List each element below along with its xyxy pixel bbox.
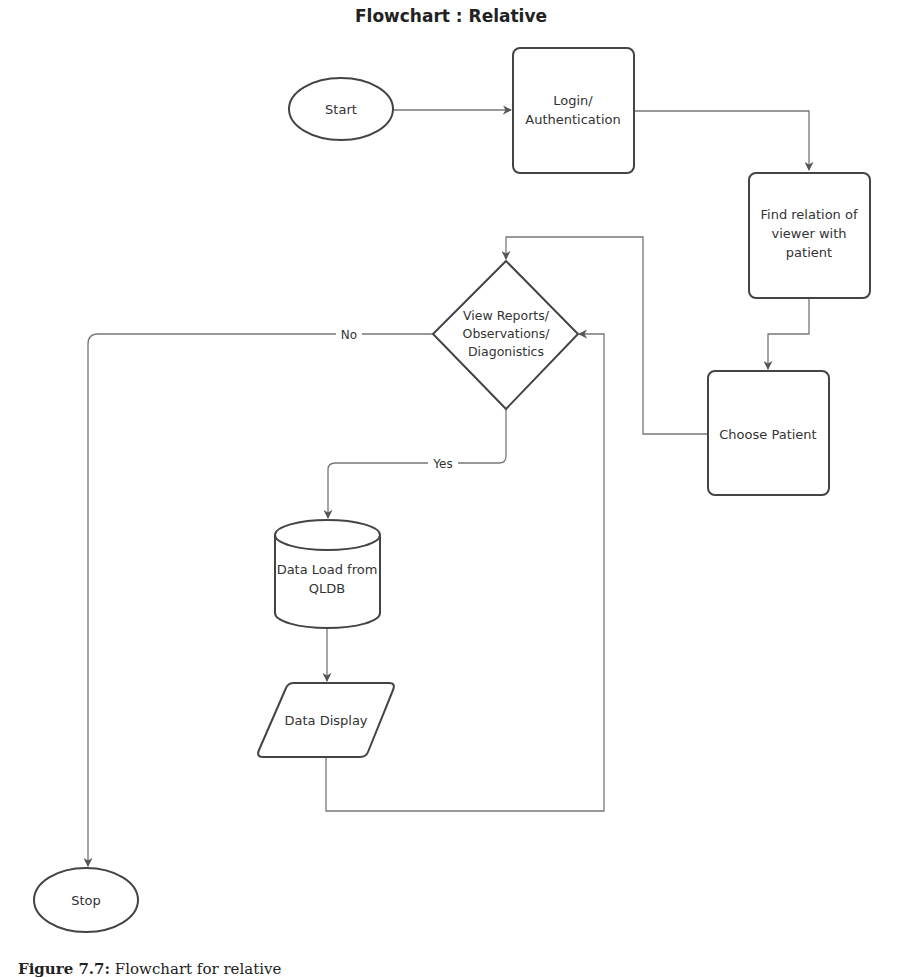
login-label-line-1: Login/ (553, 93, 593, 108)
decision-label-line-3: Diagonistics (468, 344, 544, 359)
stop-label: Stop (71, 893, 101, 908)
data-display-label: Data Display (284, 713, 367, 728)
edge-label-yes: Yes (432, 457, 452, 471)
edge-label-no: No (341, 328, 357, 342)
node-start: Start (289, 78, 393, 140)
node-data-load: Data Load from QLDB (275, 520, 380, 628)
edge-decision-yes-to-data-load (328, 409, 506, 518)
edge-login-to-find-relation (634, 111, 809, 170)
start-label: Start (325, 102, 357, 117)
connectors (88, 110, 809, 866)
figure-caption: Figure 7.7: Flowchart for relative (18, 960, 281, 978)
node-decision: View Reports/ Observations/ Diagonistics (433, 261, 578, 409)
node-login: Login/ Authentication (513, 48, 634, 173)
edge-find-relation-to-choose-patient (768, 298, 809, 369)
node-find-relation: Find relation of viewer with patient (749, 173, 870, 298)
find-relation-label-line-3: patient (786, 245, 832, 260)
node-data-display: Data Display (258, 683, 394, 757)
decision-label-line-2: Observations/ (463, 326, 551, 341)
data-load-label-line-2: QLDB (309, 581, 345, 596)
figure-caption-label: Figure 7.7: (18, 960, 110, 978)
choose-patient-label: Choose Patient (719, 427, 816, 442)
find-relation-label-line-2: viewer with (772, 226, 847, 241)
node-choose-patient: Choose Patient (708, 371, 829, 495)
login-label-line-2: Authentication (525, 112, 620, 127)
decision-label-line-1: View Reports/ (463, 308, 550, 323)
data-load-label-line-1: Data Load from (277, 562, 378, 577)
figure-caption-text: Flowchart for relative (115, 960, 282, 978)
login-process-shape (513, 48, 634, 173)
node-stop: Stop (34, 868, 138, 932)
find-relation-label-line-1: Find relation of (761, 207, 858, 222)
edge-decision-no-to-stop (88, 334, 433, 866)
